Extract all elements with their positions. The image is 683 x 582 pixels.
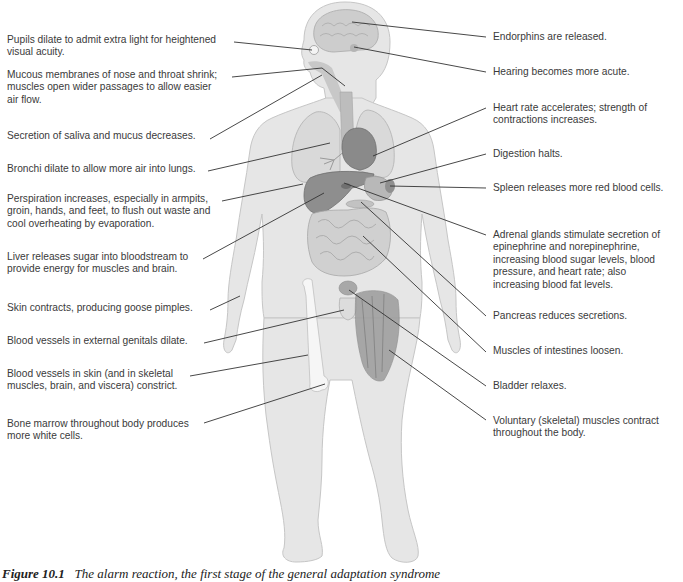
label-pupils: Pupils dilate to admit extra light for h… xyxy=(7,34,216,59)
label-line: air flow. xyxy=(7,94,217,106)
label-intestines: Muscles of intestines loosen. xyxy=(493,345,623,357)
label-line: Muscles of intestines loosen. xyxy=(493,345,623,357)
label-line: Skin contracts, producing goose pimples. xyxy=(7,302,193,314)
figure-caption-text: The alarm reaction, the first stage of t… xyxy=(75,566,441,581)
label-line: epinephrine and norepinephrine, xyxy=(493,241,660,253)
label-line: muscles, brain, and viscera) constrict. xyxy=(7,380,177,392)
label-line: Hearing becomes more acute. xyxy=(493,66,629,78)
label-line: muscles open wider passages to allow eas… xyxy=(7,81,217,93)
label-line: Endorphins are released. xyxy=(493,31,607,43)
label-line: Digestion halts. xyxy=(493,148,563,160)
legs xyxy=(263,318,420,562)
label-line: increasing blood fat levels. xyxy=(493,279,660,291)
label-line: Blood vessels in skin (and in skeletal xyxy=(7,368,177,380)
label-adrenal: Adrenal glands stimulate secretion of ep… xyxy=(493,229,660,291)
label-digestion: Digestion halts. xyxy=(493,148,563,160)
figure-caption: Figure 10.1 The alarm reaction, the firs… xyxy=(2,566,440,582)
label-line: throughout the body. xyxy=(493,427,659,439)
pancreas xyxy=(346,200,374,208)
label-line: Pupils dilate to admit extra light for h… xyxy=(7,34,216,46)
label-saliva: Secretion of saliva and mucus decreases. xyxy=(7,130,196,142)
label-line: Spleen releases more red blood cells. xyxy=(493,182,663,194)
label-line: contractions increases. xyxy=(493,114,647,126)
label-skin: Skin contracts, producing goose pimples. xyxy=(7,302,193,314)
brain xyxy=(314,10,379,52)
label-line: Liver releases sugar into bloodstream to xyxy=(7,251,188,263)
leader-line-pupils xyxy=(234,42,312,50)
label-perspiration: Perspiration increases, especially in ar… xyxy=(7,193,210,230)
label-genitals: Blood vessels in external genitals dilat… xyxy=(7,335,188,347)
label-line: Blood vessels in external genitals dilat… xyxy=(7,335,188,347)
label-line: Perspiration increases, especially in ar… xyxy=(7,193,210,205)
bladder xyxy=(339,281,357,295)
label-pancreas: Pancreas reduces secretions. xyxy=(493,310,627,322)
label-liver: Liver releases sugar into bloodstream to… xyxy=(7,251,188,276)
label-line: groin, hands, and feet, to flush out was… xyxy=(7,205,210,217)
label-line: visual acuity. xyxy=(7,46,216,58)
label-heart: Heart rate accelerates; strength of cont… xyxy=(493,102,647,127)
label-bladder: Bladder relaxes. xyxy=(493,380,567,392)
label-line: Mucous membranes of nose and throat shri… xyxy=(7,69,217,81)
label-line: Pancreas reduces secretions. xyxy=(493,310,627,322)
label-spleen: Spleen releases more red blood cells. xyxy=(493,182,663,194)
label-line: Secretion of saliva and mucus decreases. xyxy=(7,130,196,142)
label-mucous: Mucous membranes of nose and throat shri… xyxy=(7,69,217,106)
label-line: Heart rate accelerates; strength of xyxy=(493,102,647,114)
label-line: Bladder relaxes. xyxy=(493,380,567,392)
label-line: pressure, and heart rate; also xyxy=(493,266,660,278)
label-line: Bronchi dilate to allow more air into lu… xyxy=(7,163,196,175)
heart xyxy=(342,128,376,170)
label-marrow: Bone marrow throughout body produces mor… xyxy=(7,418,189,443)
label-line: Adrenal glands stimulate secretion of xyxy=(493,229,660,241)
label-line: cool overheating by evaporation. xyxy=(7,218,210,230)
label-line: provide energy for muscles and brain. xyxy=(7,263,188,275)
figure-number: Figure 10.1 xyxy=(2,566,65,581)
label-bronchi: Bronchi dilate to allow more air into lu… xyxy=(7,163,196,175)
label-vessels: Blood vessels in skin (and in skeletal m… xyxy=(7,368,177,393)
label-endorphins: Endorphins are released. xyxy=(493,31,607,43)
label-line: more white cells. xyxy=(7,430,189,442)
label-line: increasing blood sugar levels, blood xyxy=(493,254,660,266)
label-voluntary: Voluntary (skeletal) muscles contract th… xyxy=(493,415,659,440)
inner-ear xyxy=(350,44,358,52)
body-silhouette xyxy=(224,2,461,562)
intestines xyxy=(308,208,391,276)
label-hearing: Hearing becomes more acute. xyxy=(493,66,629,78)
label-line: Voluntary (skeletal) muscles contract xyxy=(493,415,659,427)
label-line: Bone marrow throughout body produces xyxy=(7,418,189,430)
leader-line-mucous xyxy=(232,68,322,77)
